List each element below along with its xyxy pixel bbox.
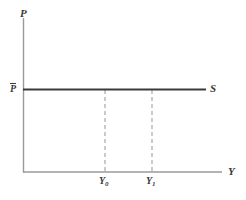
x-tick-y1-subscript: 1 bbox=[152, 180, 156, 188]
supply-curve-figure: P Y P S Y0 Y1 bbox=[0, 0, 246, 200]
plot-canvas bbox=[0, 0, 246, 200]
y-axis-label: P bbox=[20, 8, 27, 19]
supply-curve-label: S bbox=[210, 83, 216, 94]
x-tick-label-y1: Y1 bbox=[146, 176, 156, 186]
price-level-overline: P bbox=[10, 83, 16, 94]
x-axis-label: Y bbox=[228, 166, 235, 177]
x-tick-y0-subscript: 0 bbox=[105, 180, 109, 188]
price-level-tick-label: P bbox=[10, 83, 16, 94]
x-tick-label-y0: Y0 bbox=[99, 176, 109, 186]
